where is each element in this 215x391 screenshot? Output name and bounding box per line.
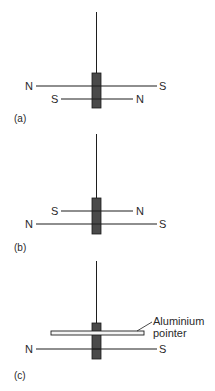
pole-label: N (136, 93, 144, 105)
aluminium-pointer (51, 331, 144, 335)
panel-a: N S S N (a) (14, 12, 166, 124)
pole-label: S (159, 80, 166, 92)
panel-caption: (c) (14, 370, 26, 381)
pointer-label: pointer (153, 327, 187, 339)
pole-label: N (25, 80, 33, 92)
pole-label: S (51, 205, 58, 217)
pole-label: S (159, 218, 166, 230)
needle-holder (92, 73, 101, 108)
pole-label: S (51, 93, 58, 105)
needle-holder (92, 198, 101, 234)
pointer-label: Aluminium (153, 315, 204, 327)
panel-caption: (a) (14, 113, 26, 124)
panel-caption: (b) (14, 242, 26, 253)
needle-holder (92, 323, 101, 359)
pole-label: N (25, 343, 33, 355)
panel-c: Aluminium pointer N S (c) (14, 261, 204, 381)
panel-b: S N N S (b) (14, 134, 166, 253)
pole-label: N (136, 205, 144, 217)
leader-line (137, 322, 152, 331)
pole-label: S (159, 343, 166, 355)
pole-label: N (25, 218, 33, 230)
astatic-needle-diagram: N S S N (a) S N N S (b) Aluminium pointe… (0, 0, 215, 391)
